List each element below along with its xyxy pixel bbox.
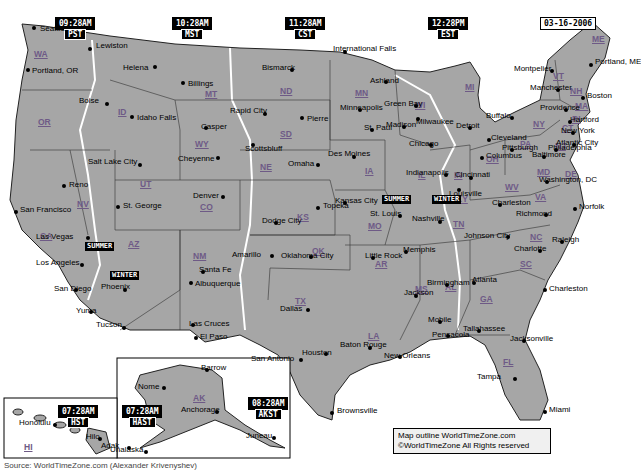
state-label-ny[interactable]: NY [533,120,545,129]
city-label[interactable]: Honolulu [19,418,51,427]
city-label[interactable]: Chicago [409,139,438,148]
city-label[interactable]: Omaha [288,159,314,168]
city-label[interactable]: Reno [69,180,88,189]
city-label[interactable]: El Paso [200,332,228,341]
city-label[interactable]: Charleston [492,198,531,207]
city-label[interactable]: Hilo [86,432,100,441]
state-label-vt[interactable]: VT [553,72,564,81]
city-label[interactable]: Boise [79,96,99,105]
state-label-sc[interactable]: SC [520,260,532,269]
state-label-ga[interactable]: GA [480,295,493,304]
city-label[interactable]: Indianapolis [406,168,449,177]
state-label-ut[interactable]: UT [140,180,151,189]
state-label-ne[interactable]: NE [260,163,272,172]
city-label[interactable]: Jackson [404,288,433,297]
city-label[interactable]: Milwaukee [416,117,454,126]
city-label[interactable]: Rapid City [230,106,267,115]
city-label[interactable]: Jacksonville [510,334,553,343]
city-label[interactable]: Washington, DC [539,175,597,184]
city-label[interactable]: Richmond [516,209,552,218]
state-label-id[interactable]: ID [118,108,127,117]
city-label[interactable]: Kansas City [335,196,378,205]
state-label-mt[interactable]: MT [205,90,217,99]
city-label[interactable]: Portland, ME [595,57,641,66]
city-label[interactable]: Miami [549,405,570,414]
city-label[interactable]: Manchester [530,83,572,92]
city-label[interactable]: Providence [540,103,580,112]
state-label-ak[interactable]: AK [193,394,205,403]
city-label[interactable]: Birmingham [427,278,470,287]
city-label[interactable]: New York [561,126,595,135]
city-label[interactable]: Oklahoma City [281,251,333,260]
city-label[interactable]: Baton Rouge [340,340,387,349]
city-label[interactable]: Charlotte [514,244,546,253]
city-label[interactable]: Nashville [412,214,444,223]
city-label[interactable]: Hartford [570,115,599,124]
city-label[interactable]: Montpelier [514,64,551,73]
city-label[interactable]: Charleston [549,284,588,293]
state-label-wa[interactable]: WA [34,50,48,59]
city-label[interactable]: Brownsville [337,406,377,415]
state-label-ar[interactable]: AR [375,260,387,269]
city-label[interactable]: Houston [302,348,332,357]
city-label[interactable]: Ashland [370,76,399,85]
city-label[interactable]: Yuma [76,306,96,315]
city-label[interactable]: Columbus [486,151,522,160]
city-label[interactable]: Nome [138,382,159,391]
city-label[interactable]: Tucson [96,320,122,329]
city-label[interactable]: Las Vegas [36,232,73,241]
city-label[interactable]: Salt Lake City [88,157,137,166]
city-label[interactable]: Scottsbluff [245,144,282,153]
city-label[interactable]: Green Bay [384,99,422,108]
state-label-mn[interactable]: MN [355,89,368,98]
state-label-nc[interactable]: NC [530,233,542,242]
state-label-mo[interactable]: MO [368,222,382,231]
city-label[interactable]: Raleigh [552,235,579,244]
state-label-or[interactable]: OR [38,118,51,127]
state-label-ia[interactable]: IA [365,167,374,176]
city-label[interactable]: San Antonio [251,354,294,363]
state-label-mi[interactable]: MI [465,83,474,92]
city-label[interactable]: Barrow [201,363,226,372]
city-label[interactable]: Unalaska [110,445,143,454]
state-label-fl[interactable]: FL [503,358,513,367]
city-label[interactable]: Cheyenne [178,154,214,163]
state-label-wy[interactable]: WY [195,140,209,149]
state-label-nm[interactable]: NM [193,252,206,261]
state-label-nv[interactable]: NV [77,200,89,209]
city-label[interactable]: Cleveland [491,133,527,142]
city-label[interactable]: Johnson City [464,231,510,240]
city-label[interactable]: Atlantic City [556,138,598,147]
city-label[interactable]: San Diego [54,284,91,293]
city-label[interactable]: Mobile [428,315,452,324]
city-label[interactable]: St. George [123,201,162,210]
city-label[interactable]: Anchorage [181,405,220,414]
city-label[interactable]: St. Louis [370,209,401,218]
city-label[interactable]: Seattle [40,24,65,33]
state-label-sd[interactable]: SD [280,130,292,139]
city-label[interactable]: Madison [386,120,416,129]
city-label[interactable]: Helena [123,63,148,72]
city-label[interactable]: Amarillo [232,250,261,259]
state-label-tn[interactable]: TN [453,220,464,229]
city-label[interactable]: Cincinnati [455,170,490,179]
city-label[interactable]: Albuquerque [195,279,240,288]
city-label[interactable]: Des Moines [328,149,370,158]
city-label[interactable]: Minneapolis [340,103,383,112]
city-label[interactable]: Santa Fe [199,265,231,274]
state-label-co[interactable]: CO [200,203,213,212]
city-label[interactable]: Tallahassee [463,324,505,333]
city-label[interactable]: Memphis [403,245,435,254]
city-label[interactable]: San Francisco [20,205,71,214]
state-label-wv[interactable]: WV [505,183,519,192]
city-label[interactable]: Portland, OR [32,66,78,75]
state-label-me[interactable]: ME [592,35,605,44]
city-label[interactable]: Phoenix [101,282,130,291]
city-label[interactable]: Bismarck [262,63,295,72]
city-label[interactable]: Pierre [307,114,328,123]
city-label[interactable]: Atlanta [472,275,497,284]
city-label[interactable]: Lewiston [96,41,128,50]
city-label[interactable]: Dodge City [262,216,302,225]
city-label[interactable]: Boston [587,91,612,100]
state-label-az[interactable]: AZ [128,240,139,249]
